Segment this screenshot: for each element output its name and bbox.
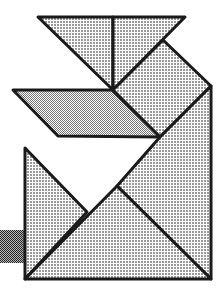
- tangram-figure: [0, 0, 219, 293]
- top-left-triangle: [38, 17, 113, 90]
- dark-square: [0, 230, 25, 263]
